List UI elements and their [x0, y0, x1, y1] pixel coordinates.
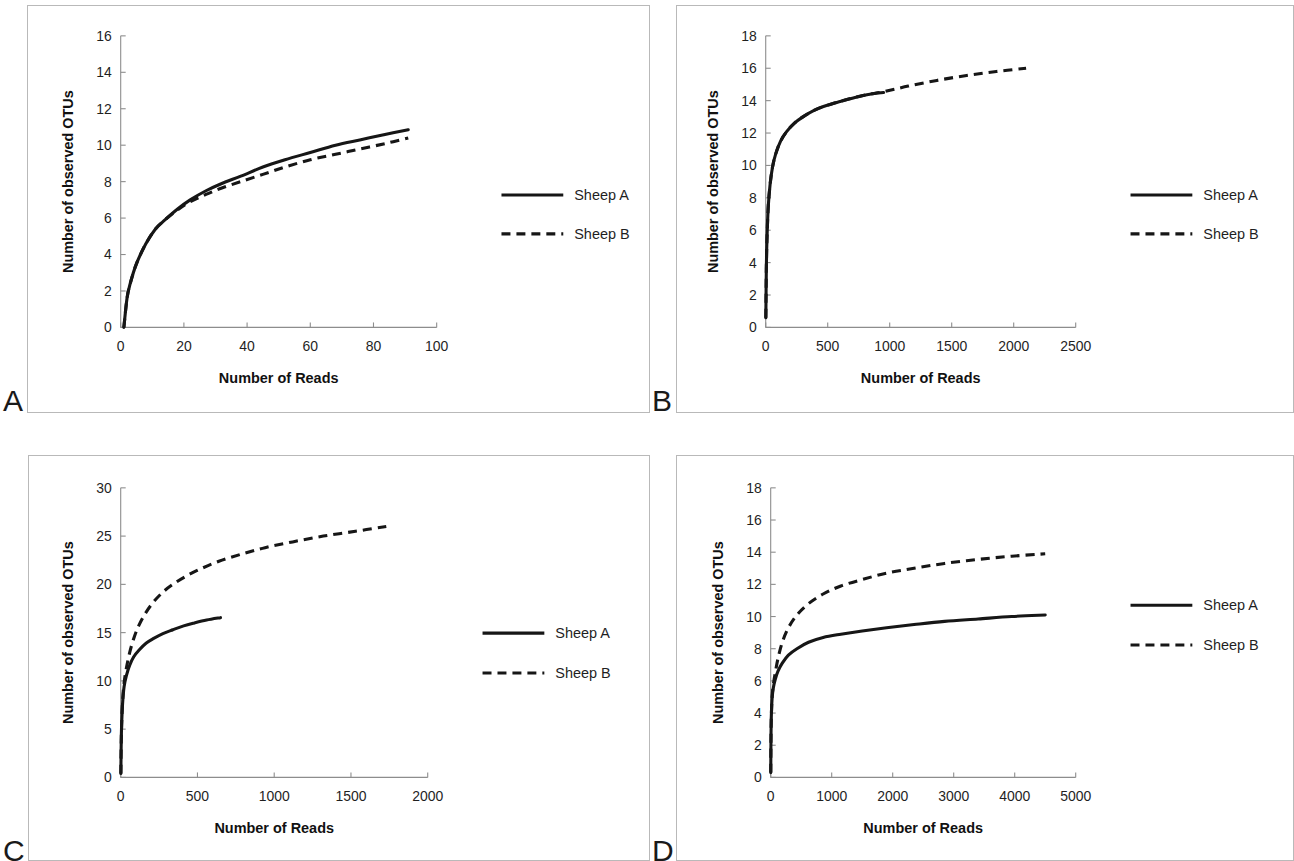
- series-line-sheep-b: [766, 68, 1026, 317]
- x-tick-label: 500: [816, 338, 840, 354]
- y-tick-label: 4: [754, 705, 762, 721]
- y-tick-label: 16: [741, 60, 757, 76]
- y-tick-label: 10: [741, 157, 757, 173]
- y-tick-label: 30: [96, 480, 112, 496]
- legend-label-sheep-b: Sheep B: [555, 665, 610, 681]
- x-tick-label: 1500: [936, 338, 967, 354]
- legend-label-sheep-b: Sheep B: [1203, 226, 1258, 242]
- y-axis-title: Number of observed OTUs: [705, 90, 721, 273]
- panel-a-plot: 0246810121416020406080100Number of Reads…: [28, 6, 649, 412]
- y-tick-label: 18: [741, 28, 757, 44]
- y-tick-label: 6: [749, 222, 757, 238]
- y-tick-label: 25: [96, 528, 112, 544]
- y-tick-label: 12: [746, 576, 762, 592]
- x-tick-label: 3000: [938, 788, 969, 804]
- y-tick-label: 2: [754, 737, 762, 753]
- x-tick-label: 100: [425, 338, 449, 354]
- panel-label-c: C: [3, 836, 25, 861]
- panel-c-plot: 0510152025300500100015002000Number of Re…: [29, 456, 649, 860]
- x-tick-label: 2000: [412, 788, 443, 804]
- x-tick-label: 500: [186, 788, 210, 804]
- x-tick-label: 1500: [335, 788, 366, 804]
- series-line-sheep-a: [766, 93, 884, 318]
- y-tick-label: 10: [96, 673, 112, 689]
- series-line-sheep-a: [121, 618, 221, 774]
- x-tick-label: 1000: [816, 788, 847, 804]
- x-axis-title: Number of Reads: [863, 820, 983, 836]
- x-tick-label: 0: [117, 788, 125, 804]
- panel-label-a: A: [3, 386, 23, 416]
- y-tick-label: 15: [96, 625, 112, 641]
- x-tick-label: 0: [762, 338, 770, 354]
- legend-label-sheep-a: Sheep A: [555, 625, 610, 641]
- y-tick-label: 8: [749, 190, 757, 206]
- series-line-sheep-b: [771, 554, 1045, 773]
- figure-rarefaction-curves: 0246810121416020406080100Number of Reads…: [0, 0, 1294, 861]
- y-tick-label: 14: [741, 93, 757, 109]
- y-tick-label: 8: [104, 174, 112, 190]
- y-axis-title: Number of observed OTUs: [60, 541, 76, 724]
- y-tick-label: 4: [104, 247, 112, 263]
- panel-d: 024681012141618010002000300040005000Numb…: [676, 455, 1294, 861]
- y-tick-label: 2: [104, 283, 112, 299]
- y-tick-label: 10: [96, 137, 112, 153]
- x-tick-label: 1000: [259, 788, 290, 804]
- y-tick-label: 16: [746, 512, 762, 528]
- panel-d-plot: 024681012141618010002000300040005000Numb…: [677, 456, 1293, 860]
- panel-b: 02468101214161805001000150020002500Numbe…: [676, 5, 1294, 413]
- x-tick-label: 60: [303, 338, 319, 354]
- x-tick-label: 80: [366, 338, 382, 354]
- legend-label-sheep-b: Sheep B: [574, 226, 629, 242]
- x-tick-label: 2500: [1060, 338, 1091, 354]
- y-axis-title: Number of observed OTUs: [710, 541, 726, 724]
- y-tick-label: 4: [749, 255, 757, 271]
- x-tick-label: 2000: [877, 788, 908, 804]
- y-tick-label: 10: [746, 609, 762, 625]
- x-tick-label: 5000: [1060, 788, 1091, 804]
- x-axis-title: Number of Reads: [861, 370, 981, 386]
- panel-label-d: D: [652, 836, 674, 861]
- y-tick-label: 6: [104, 210, 112, 226]
- y-tick-label: 20: [96, 576, 112, 592]
- y-tick-label: 14: [96, 64, 112, 80]
- x-axis-title: Number of Reads: [219, 370, 339, 386]
- y-tick-label: 14: [746, 544, 762, 560]
- y-tick-label: 0: [104, 769, 112, 785]
- legend-label-sheep-a: Sheep A: [574, 187, 629, 203]
- x-tick-label: 1000: [874, 338, 905, 354]
- y-tick-label: 0: [104, 319, 112, 335]
- y-tick-label: 5: [104, 721, 112, 737]
- x-tick-label: 20: [176, 338, 192, 354]
- y-tick-label: 12: [96, 101, 112, 117]
- legend-label-sheep-a: Sheep A: [1203, 187, 1258, 203]
- y-tick-label: 18: [746, 480, 762, 496]
- series-line-sheep-b: [121, 526, 386, 773]
- y-tick-label: 8: [754, 641, 762, 657]
- legend-label-sheep-b: Sheep B: [1203, 637, 1258, 653]
- y-tick-label: 6: [754, 673, 762, 689]
- x-tick-label: 40: [239, 338, 255, 354]
- x-tick-label: 4000: [999, 788, 1030, 804]
- series-line-sheep-a: [771, 615, 1045, 773]
- x-axis-title: Number of Reads: [214, 820, 334, 836]
- y-tick-label: 2: [749, 287, 757, 303]
- y-tick-label: 0: [754, 769, 762, 785]
- y-tick-label: 12: [741, 125, 757, 141]
- panel-a: 0246810121416020406080100Number of Reads…: [27, 5, 650, 413]
- panel-c: 0510152025300500100015002000Number of Re…: [28, 455, 650, 861]
- x-tick-label: 0: [767, 788, 775, 804]
- legend-label-sheep-a: Sheep A: [1203, 597, 1258, 613]
- y-axis-title: Number of observed OTUs: [60, 90, 76, 273]
- series-line-sheep-a: [124, 130, 408, 328]
- x-tick-label: 0: [117, 338, 125, 354]
- y-tick-label: 0: [749, 319, 757, 335]
- panel-b-plot: 02468101214161805001000150020002500Numbe…: [677, 6, 1293, 412]
- panel-label-b: B: [652, 386, 672, 416]
- x-tick-label: 2000: [998, 338, 1029, 354]
- y-tick-label: 16: [96, 28, 112, 44]
